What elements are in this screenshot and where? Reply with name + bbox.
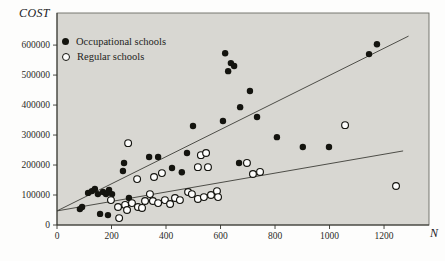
y-axis-title: COST	[19, 6, 50, 21]
occupational-point	[231, 63, 237, 69]
occupational-point	[374, 41, 380, 47]
occupational-point	[366, 51, 372, 57]
occupational-point	[225, 68, 231, 74]
regular-point	[167, 201, 174, 208]
occupational-point	[247, 88, 253, 94]
x-tick-label: 800	[268, 231, 283, 241]
occupational-point	[105, 212, 111, 218]
occupational-point	[79, 204, 85, 210]
legend-item-occupational: Occupational schools	[62, 34, 166, 49]
regular-point	[205, 164, 212, 171]
y-tick-label: 400000	[22, 100, 51, 110]
x-tick-label: 400	[159, 231, 174, 241]
regular-point	[116, 215, 123, 222]
x-tick-label: 200	[104, 231, 119, 241]
y-tick-label: 100000	[22, 190, 51, 200]
regular-point	[159, 170, 166, 177]
occupational-point	[169, 165, 175, 171]
regular-point	[124, 207, 131, 214]
regular-point	[115, 204, 122, 211]
regular-point	[125, 140, 132, 147]
regular-point	[147, 191, 154, 198]
regular-point	[244, 160, 251, 167]
occupational-point	[300, 144, 306, 150]
regular-point	[257, 169, 264, 176]
open-circle-icon	[62, 53, 70, 61]
occupational-point	[155, 154, 161, 160]
regular-point	[342, 122, 349, 129]
occupational-point	[146, 154, 152, 160]
regular-point	[139, 205, 146, 212]
occupational-point	[326, 144, 332, 150]
occupational-point	[190, 123, 196, 129]
legend-label-regular: Regular schools	[77, 51, 144, 62]
regular-point	[194, 164, 201, 171]
regular-point	[142, 198, 149, 205]
occupational-point	[97, 211, 103, 217]
x-tick-label: 0	[55, 231, 60, 241]
filled-circle-icon	[62, 38, 69, 45]
occupational-point	[121, 160, 127, 166]
regular-point	[151, 174, 158, 181]
legend-item-regular: Regular schools	[62, 49, 166, 64]
regular-point	[200, 194, 207, 201]
y-tick-label: 0	[45, 220, 50, 230]
x-tick-label: 600	[213, 231, 228, 241]
occupational-point	[237, 104, 243, 110]
y-tick-label: 500000	[22, 70, 51, 80]
regular-point	[177, 197, 184, 204]
x-axis-title: N	[430, 226, 438, 241]
occupational-point	[254, 114, 260, 120]
occupational-point	[179, 169, 185, 175]
regular-point	[134, 176, 141, 183]
regular-point	[189, 191, 196, 198]
regular-point	[203, 150, 210, 157]
y-tick-label: 200000	[22, 160, 51, 170]
regular-point	[108, 197, 115, 204]
y-tick-label: 600000	[22, 40, 51, 50]
occupational-point	[120, 168, 126, 174]
regular-point	[250, 171, 257, 178]
regular-point	[155, 200, 162, 207]
school-cost-scatter-figure: 0200400600800100012000100000200000300000…	[0, 0, 445, 261]
occupational-point	[184, 150, 190, 156]
regular-point	[215, 194, 222, 201]
y-tick-label: 300000	[22, 130, 51, 140]
x-tick-label: 1200	[375, 231, 394, 241]
occupational-point	[222, 50, 228, 56]
occupational-point	[236, 160, 242, 166]
legend: Occupational schools Regular schools	[62, 34, 166, 64]
regular-point	[393, 183, 400, 190]
occupational-point	[274, 134, 280, 140]
occupational-point	[220, 118, 226, 124]
legend-label-occupational: Occupational schools	[76, 36, 166, 47]
x-tick-label: 1000	[320, 231, 339, 241]
